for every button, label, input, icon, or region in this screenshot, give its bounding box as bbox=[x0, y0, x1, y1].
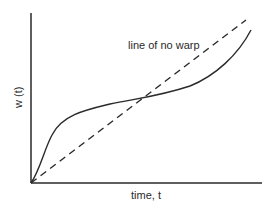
warp-curve bbox=[31, 30, 251, 183]
x-axis-label: time, t bbox=[131, 189, 161, 201]
no-warp-annotation: line of no warp bbox=[128, 39, 200, 51]
warp-diagram: line of no warp time, t w (t) bbox=[0, 0, 275, 212]
y-axis-label: w (t) bbox=[12, 87, 24, 109]
